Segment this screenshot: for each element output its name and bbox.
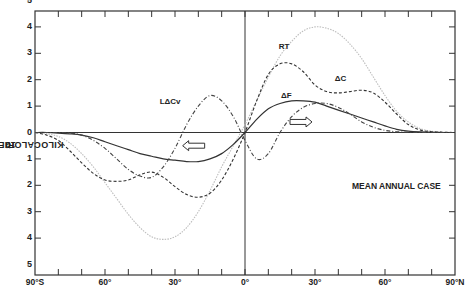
y-tick-label: 0 (22, 127, 32, 137)
y-tick-label: 2 (22, 74, 32, 84)
arrow-left-icon (183, 141, 205, 151)
y-tick-label: 3 (22, 206, 32, 216)
chart-annotation: MEAN ANNUAL CASE (352, 181, 441, 191)
y-tick-label: 4 (22, 232, 32, 242)
x-tick-label: 30° (309, 277, 322, 287)
x-tick-label: 90°S (26, 277, 45, 287)
curve-label: ΔF (281, 91, 292, 100)
y-tick-label: 1 (22, 100, 32, 110)
chart-plot-area (0, 0, 476, 289)
x-tick-label: 0° (241, 277, 249, 287)
curve-label: RT (279, 42, 290, 51)
y-tick-label: 2 (22, 179, 32, 189)
y-tick-label: 4 (22, 21, 32, 31)
y-tick-label: 3 (22, 47, 32, 57)
x-tick-label: 60° (99, 277, 112, 287)
x-tick-label: 60° (379, 277, 392, 287)
y-tick-label: 1 (22, 153, 32, 163)
y-tick-label: 5 (22, 259, 32, 269)
x-tick-label: 90°N (446, 277, 465, 287)
arrow-right-icon (290, 117, 312, 127)
x-tick-label: 30° (169, 277, 182, 287)
y-tick-label: 5 (22, 0, 32, 5)
curve-label: ΔC (335, 74, 347, 83)
curve-label: LΔCv (160, 97, 181, 106)
